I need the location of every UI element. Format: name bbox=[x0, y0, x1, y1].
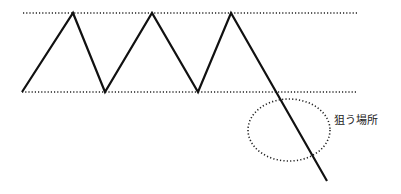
triple-top-diagram: 狙う場所 bbox=[0, 0, 401, 194]
price-path bbox=[22, 13, 327, 181]
target-zone-ellipse bbox=[248, 99, 330, 161]
target-zone-label: 狙う場所 bbox=[334, 114, 378, 127]
